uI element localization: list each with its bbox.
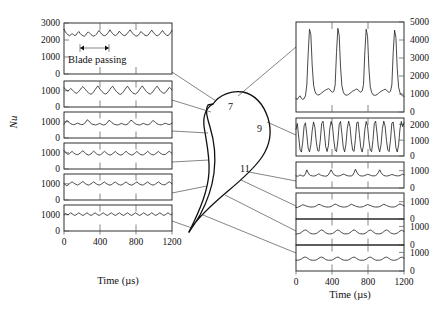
chart-right-panel-3: 01000: [296, 162, 429, 193]
right-x-axis: 04008001200: [294, 271, 414, 287]
right-x-tick-label: 800: [361, 277, 376, 287]
y-tick-label: 2000: [41, 35, 60, 45]
y-tick-label: 0: [55, 102, 60, 112]
chart-right-panel-2: 010002000: [296, 118, 429, 161]
y-axis-label: Nu: [7, 115, 19, 129]
y-tick-label: 0: [410, 266, 415, 276]
leader-lines-left: [172, 72, 216, 228]
left-x-tick-label: 1200: [163, 237, 182, 247]
right-panel-column: 0100020003000400050000100020000100001000…: [296, 17, 429, 276]
data-trace: [64, 181, 172, 185]
chart-left-panel-5: 01000: [41, 174, 172, 205]
y-tick-label: 0: [410, 151, 415, 161]
blade-outline: [189, 92, 270, 232]
data-trace: [296, 121, 404, 152]
y-tick-label: 0: [55, 164, 60, 174]
y-tick-label: 0: [55, 133, 60, 143]
data-trace: [296, 230, 404, 234]
chart-left-panel-2: 01000: [41, 81, 172, 112]
y-tick-label: 3000: [410, 53, 429, 63]
y-tick-label: 1000: [41, 86, 60, 96]
right-x-tick-label: 400: [325, 277, 340, 287]
y-tick-label: 1000: [41, 210, 60, 220]
data-trace: [64, 29, 172, 36]
data-trace: [296, 28, 404, 99]
y-tick-label: 1000: [410, 248, 429, 258]
chart-left-panel-3: 01000: [41, 112, 172, 143]
y-tick-label: 5000: [410, 17, 429, 27]
chart-right-panel-4: 01000: [296, 193, 429, 224]
data-trace: [296, 257, 404, 260]
y-tick-label: 2000: [410, 120, 429, 130]
turbine-blade-nusselt-figure: 7 9 11 010002000300001000010000100001000…: [0, 0, 444, 315]
data-trace: [296, 204, 404, 208]
y-tick-label: 1000: [410, 197, 429, 207]
y-tick-label: 0: [410, 183, 415, 193]
right-x-tick-label: 0: [294, 277, 299, 287]
y-tick-label: 3000: [41, 18, 60, 28]
y-tick-label: 1000: [410, 166, 429, 176]
figure-container: 7 9 11 010002000300001000010000100001000…: [0, 0, 444, 315]
left-panel-column: 01000200030000100001000010000100001000: [41, 18, 172, 236]
y-tick-label: 0: [55, 195, 60, 205]
chart-left-panel-4: 01000: [41, 143, 172, 174]
data-trace: [64, 213, 172, 216]
y-tick-label: 2000: [410, 71, 429, 81]
turbine-blade-cross-section: [189, 92, 270, 232]
data-trace: [64, 86, 172, 94]
left-x-tick-label: 0: [62, 237, 67, 247]
y-tick-label: 1000: [41, 117, 60, 127]
leader-lines-right: [203, 47, 296, 253]
blade-label-9: 9: [257, 123, 262, 134]
chart-right-panel-1: 010002000300040005000: [296, 17, 429, 117]
right-x-axis-title: Time (µs): [329, 289, 371, 301]
y-tick-label: 0: [55, 69, 60, 79]
blade-passing-annotation: Blade passing: [68, 44, 127, 65]
blade-label-7: 7: [228, 101, 233, 112]
left-x-tick-label: 800: [129, 237, 144, 247]
left-x-axis-title: Time (µs): [97, 275, 139, 287]
y-tick-label: 1000: [41, 148, 60, 158]
chart-left-panel-6: 01000: [41, 205, 172, 236]
y-tick-label: 1000: [41, 179, 60, 189]
left-x-tick-label: 400: [93, 237, 108, 247]
chart-right-panel-6: 01000: [296, 245, 429, 276]
y-tick-label: 1000: [410, 89, 429, 99]
y-tick-label: 1000: [41, 52, 60, 62]
chart-right-panel-5: 01000: [296, 219, 429, 250]
blade-label-11: 11: [240, 163, 250, 174]
y-tick-label: 1000: [410, 136, 429, 146]
blade-passing-label: Blade passing: [68, 54, 127, 65]
left-x-axis: 04008001200: [62, 231, 182, 247]
y-tick-label: 4000: [410, 35, 429, 45]
y-tick-label: 1000: [410, 222, 429, 232]
right-x-tick-label: 1200: [395, 277, 414, 287]
data-trace: [296, 169, 404, 176]
y-tick-label: 0: [55, 226, 60, 236]
data-trace: [64, 150, 172, 155]
y-tick-label: 0: [410, 107, 415, 117]
data-trace: [64, 120, 172, 125]
